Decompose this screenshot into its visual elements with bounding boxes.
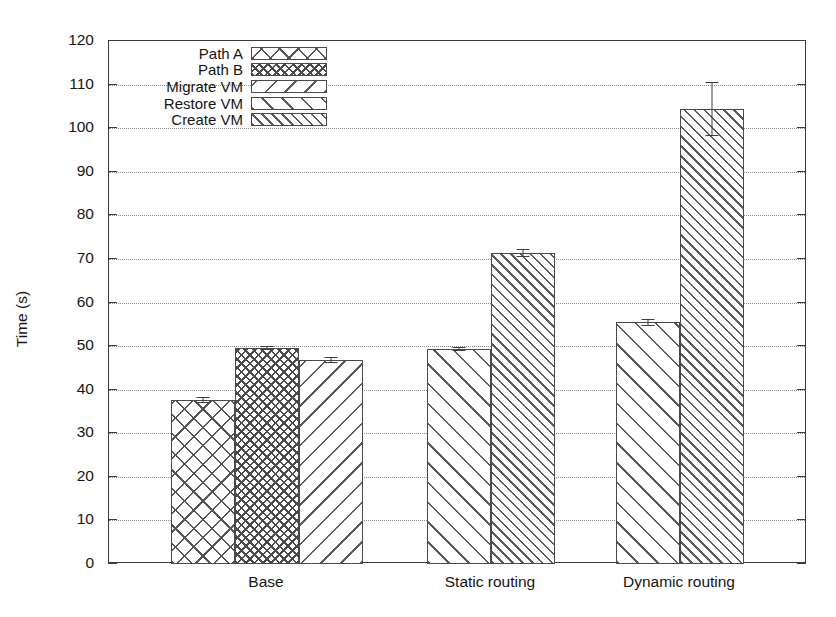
y-tick-mark xyxy=(108,432,117,433)
y-tick-label: 30 xyxy=(77,423,94,441)
error-bar-stem xyxy=(712,82,713,136)
legend-label: Restore VM xyxy=(164,96,243,111)
legend-swatch xyxy=(251,63,327,76)
y-tick-mark-right xyxy=(797,476,806,477)
y-tick-mark xyxy=(108,563,117,564)
legend-label: Path A xyxy=(199,46,243,61)
y-tick-label: 100 xyxy=(68,118,94,136)
error-bar-cap-top xyxy=(642,319,655,320)
y-tick-mark-right xyxy=(797,345,806,346)
chart-legend: Path APath BMigrate VMRestore VMCreate V… xyxy=(112,45,327,128)
legend-label: Create VM xyxy=(171,112,243,127)
error-bar xyxy=(616,319,680,326)
error-bar xyxy=(299,357,363,362)
legend-item: Create VM xyxy=(112,111,327,128)
y-tick-mark-right xyxy=(797,389,806,390)
error-bar xyxy=(235,346,299,350)
legend-label: Path B xyxy=(198,62,243,77)
y-tick-mark-right xyxy=(797,127,806,128)
error-bar-cap-bottom xyxy=(706,135,719,136)
error-bar-cap-bottom xyxy=(453,350,466,351)
error-bar-cap-top xyxy=(325,357,338,358)
y-tick-mark-right xyxy=(797,40,806,41)
error-bar-cap-top xyxy=(517,249,530,250)
error-bar-cap-bottom xyxy=(517,256,530,257)
legend-swatch xyxy=(251,80,327,93)
error-bar xyxy=(427,347,491,351)
y-tick-mark xyxy=(108,519,117,520)
error-bar-cap-bottom xyxy=(261,349,274,350)
chart-root: Time (s) 0102030405060708090100110120 Ba… xyxy=(0,0,836,617)
y-tick-label: 70 xyxy=(77,249,94,267)
error-bar xyxy=(491,249,555,257)
error-bar-cap-top xyxy=(453,347,466,348)
legend-item: Restore VM xyxy=(112,95,327,112)
y-tick-mark-right xyxy=(797,432,806,433)
error-bar-cap-bottom xyxy=(325,362,338,363)
y-tick-mark-right xyxy=(797,84,806,85)
legend-item: Migrate VM xyxy=(112,78,327,95)
y-tick-mark-right xyxy=(797,302,806,303)
y-tick-label: 50 xyxy=(77,336,94,354)
error-bar-cap-top xyxy=(197,397,210,398)
legend-label: Migrate VM xyxy=(166,79,243,94)
y-tick-mark xyxy=(108,345,117,346)
y-tick-mark xyxy=(108,40,117,41)
error-bar xyxy=(680,82,744,136)
legend-swatch xyxy=(251,113,327,126)
y-tick-mark xyxy=(108,302,117,303)
y-tick-mark xyxy=(108,84,117,85)
legend-swatch xyxy=(251,97,327,110)
y-tick-label: 80 xyxy=(77,205,94,223)
error-bar xyxy=(171,397,235,403)
y-axis-ticks: 0102030405060708090100110120 xyxy=(0,0,104,617)
y-tick-mark-right xyxy=(797,258,806,259)
x-tick-label-dynamic-routing: Dynamic routing xyxy=(623,573,735,591)
y-tick-mark xyxy=(108,127,117,128)
y-tick-label: 120 xyxy=(68,31,94,49)
y-tick-mark-right xyxy=(797,563,806,564)
y-tick-mark xyxy=(108,171,117,172)
x-tick-label-base: Base xyxy=(248,573,283,591)
legend-item: Path B xyxy=(112,62,327,79)
y-tick-mark xyxy=(108,258,117,259)
y-tick-mark-right xyxy=(797,519,806,520)
y-tick-label: 40 xyxy=(77,380,94,398)
y-tick-mark-right xyxy=(797,214,806,215)
y-tick-label: 110 xyxy=(69,75,94,93)
y-tick-label: 60 xyxy=(77,293,94,311)
error-bar-cap-top xyxy=(261,346,274,347)
error-bar-cap-top xyxy=(706,82,719,83)
y-tick-label: 20 xyxy=(77,467,94,485)
y-tick-mark-right xyxy=(797,171,806,172)
y-tick-mark xyxy=(108,476,117,477)
x-tick-label-static-routing: Static routing xyxy=(445,573,535,591)
y-tick-mark xyxy=(108,214,117,215)
y-tick-mark xyxy=(108,389,117,390)
y-tick-label: 10 xyxy=(77,510,94,528)
error-bar-cap-bottom xyxy=(197,402,210,403)
error-bar-cap-bottom xyxy=(642,325,655,326)
legend-item: Path A xyxy=(112,45,327,62)
legend-swatch xyxy=(251,47,327,60)
y-tick-label: 90 xyxy=(77,162,94,180)
y-tick-label: 0 xyxy=(85,554,94,572)
